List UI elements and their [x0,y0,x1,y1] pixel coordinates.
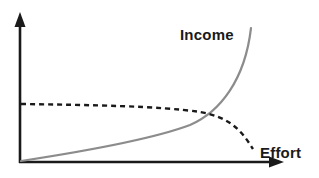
income-curve [21,28,251,161]
y-axis-arrow-icon [15,12,26,27]
income-label: Income [180,27,234,42]
effort-curve [21,104,253,149]
effort-label: Effort [260,145,301,160]
